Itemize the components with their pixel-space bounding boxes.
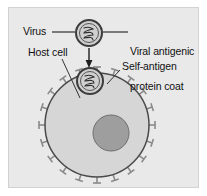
label-self-antigen: Self-antigen xyxy=(122,61,177,73)
cell-nucleus xyxy=(93,115,129,151)
figure-container: Virus Host cell Viral antigenic protein … xyxy=(0,0,207,196)
bound-virus-particle xyxy=(77,68,103,94)
free-virus-particle xyxy=(76,20,102,46)
infection-arrow xyxy=(86,48,93,68)
label-viral-coat-line2: protein coat xyxy=(130,81,194,93)
label-virus: Virus xyxy=(23,26,46,38)
label-host-cell: Host cell xyxy=(28,47,67,59)
label-viral-coat-line1: Viral antigenic xyxy=(130,46,194,58)
